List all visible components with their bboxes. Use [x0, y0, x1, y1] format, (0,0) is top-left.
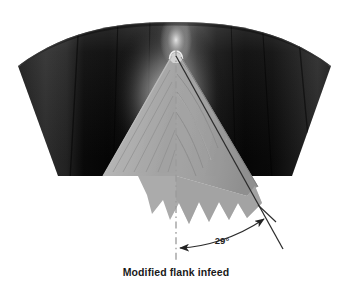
figure-container: 29° Modified flank infeed — [0, 0, 349, 291]
modified-flank-infeed-diagram: 29° Modified flank infeed — [0, 0, 349, 291]
figure-caption: Modified flank infeed — [123, 266, 230, 278]
angle-label: 29° — [215, 235, 230, 246]
